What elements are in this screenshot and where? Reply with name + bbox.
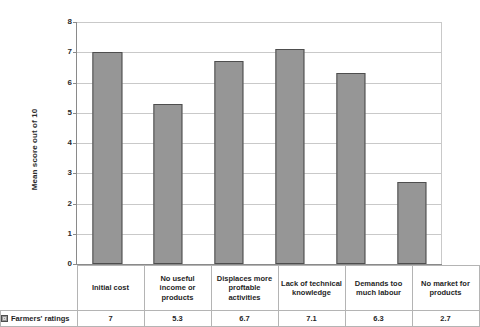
legend-spacer-cell [1, 266, 78, 311]
y-tick-label-3: 3 [68, 169, 72, 177]
table-cell-value: 6.3 [345, 311, 412, 327]
table-cell-value: 6.7 [211, 311, 278, 327]
bar-cell [381, 22, 442, 264]
y-tick-label-1: 1 [68, 230, 72, 238]
bar[interactable] [336, 73, 365, 264]
table-cell-value: 7.1 [278, 311, 345, 327]
table-cell-category: No market for products [412, 266, 479, 311]
table-cell-category: Initial cost [77, 266, 144, 311]
bar-cell [77, 22, 138, 264]
table-cell-value: 5.3 [144, 311, 211, 327]
table-row-categories: Initial costNo useful income or products… [1, 266, 480, 311]
table-row-values: Farmers' ratings 75.36.77.16.32.7 [1, 311, 480, 327]
table-cell-category: No useful income or products [144, 266, 211, 311]
bar-cell [259, 22, 320, 264]
series-swatch-icon [1, 315, 8, 322]
legend-label: Farmers' ratings [11, 314, 69, 323]
bar-cell [320, 22, 381, 264]
y-tick-label-8: 8 [68, 18, 72, 26]
bar-series-farmers-ratings [77, 22, 442, 264]
bar[interactable] [397, 182, 426, 264]
table-cell-value: 7 [77, 311, 144, 327]
y-tick-label-4: 4 [68, 139, 72, 147]
y-tick-label-7: 7 [68, 48, 72, 56]
bar[interactable] [154, 104, 183, 264]
data-table-wrap: Initial costNo useful income or products… [0, 265, 448, 327]
y-tick-label-6: 6 [68, 79, 72, 87]
data-table: Initial costNo useful income or products… [0, 265, 480, 327]
table-cell-category: Demands too much labour [345, 266, 412, 311]
table-cell-value: 2.7 [412, 311, 479, 327]
bar[interactable] [93, 52, 122, 264]
table-cell-category: Displaces more proftable activities [211, 266, 278, 311]
bar-cell [199, 22, 260, 264]
bar-cell [138, 22, 199, 264]
y-tick-label-2: 2 [68, 200, 72, 208]
table-cell-category: Lack of technical knowledge [278, 266, 345, 311]
plot-area: 012345678 [76, 22, 442, 265]
bar[interactable] [275, 49, 304, 264]
y-axis-title: Mean score out of 10 [30, 70, 39, 230]
y-tick-label-5: 5 [68, 109, 72, 117]
bar[interactable] [214, 61, 243, 264]
legend-entry: Farmers' ratings [1, 311, 78, 327]
